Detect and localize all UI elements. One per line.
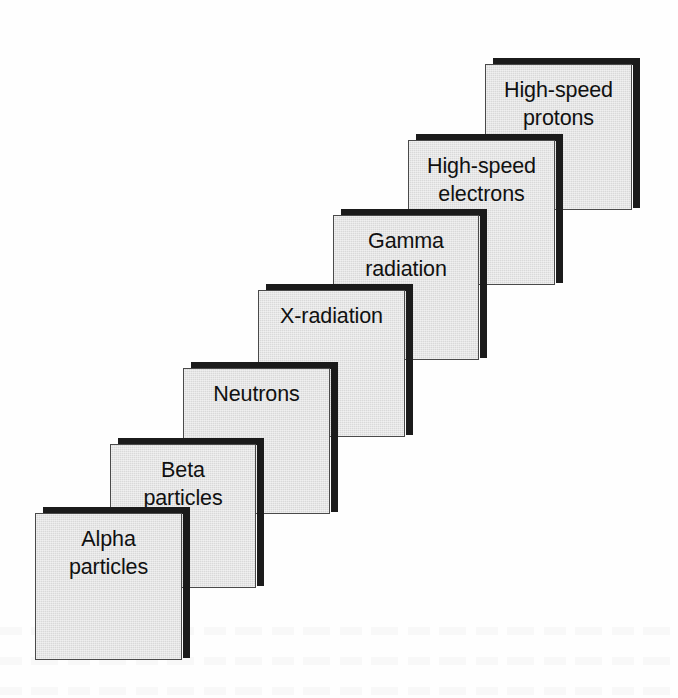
diagram-canvas: High-speed protonsHigh-speed electronsGa… — [0, 0, 678, 698]
card-shadow-right — [480, 209, 487, 358]
radiation-card-alpha-particles[interactable]: Alpha particles — [35, 513, 182, 660]
radiation-card-label-beta-particles: Beta particles — [111, 456, 255, 512]
card-shadow-right — [331, 362, 338, 512]
card-shadow-right — [183, 507, 190, 658]
radiation-card-label-x-radiation: X-radiation — [259, 302, 404, 330]
card-shadow-right — [257, 438, 264, 586]
radiation-card-label-neutrons: Neutrons — [184, 380, 329, 408]
card-shadow-right — [556, 134, 563, 283]
card-shadow-right — [633, 58, 640, 208]
card-shadow-right — [406, 284, 413, 435]
radiation-card-label-alpha-particles: Alpha particles — [36, 525, 181, 581]
radiation-card-label-gamma-radiation: Gamma radiation — [334, 227, 478, 283]
radiation-card-label-high-speed-electrons: High-speed electrons — [409, 152, 554, 208]
radiation-card-label-high-speed-protons: High-speed protons — [486, 76, 631, 132]
